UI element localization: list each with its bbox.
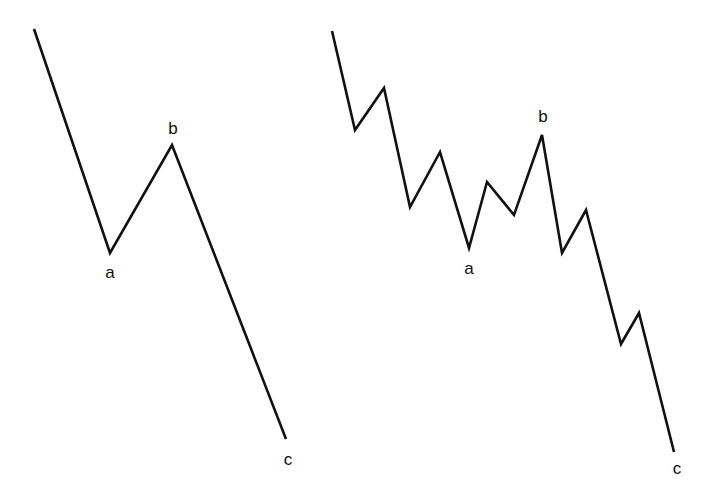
- label-c-right: c: [673, 459, 682, 478]
- label-a-left: a: [105, 263, 115, 282]
- simple-wave-line: [34, 29, 286, 439]
- right-panel: a b c: [332, 31, 682, 478]
- label-c-left: c: [284, 450, 293, 469]
- abc-wave-diagram: a b c a b c: [0, 0, 707, 497]
- label-b-left: b: [168, 119, 177, 138]
- label-a-right: a: [464, 259, 474, 278]
- label-b-right: b: [538, 107, 547, 126]
- left-panel: a b c: [34, 29, 293, 469]
- subdivided-wave-line: [332, 31, 674, 452]
